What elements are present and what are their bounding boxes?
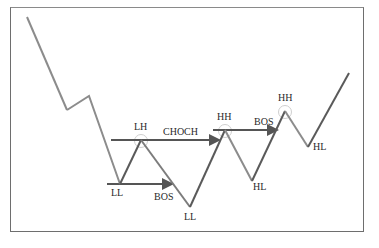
label-hh-2: HH — [278, 92, 292, 103]
label-hl-2: HL — [313, 141, 326, 152]
leg-up-2 — [190, 130, 225, 207]
label-choch: CHOCH — [163, 126, 198, 137]
label-ll-1: LL — [111, 187, 123, 198]
label-hl-1: HL — [253, 181, 266, 192]
label-ll-2: LL — [184, 211, 196, 222]
market-structure-diagram: LL LH BOS LL CHOCH HH HL BOS HH HL — [0, 0, 379, 248]
leg-up-4 — [308, 73, 349, 147]
leg-down-4 — [285, 111, 308, 147]
price-path-down — [27, 17, 67, 110]
label-bos-1: BOS — [154, 191, 173, 202]
label-hh-1: HH — [217, 111, 231, 122]
label-lh: LH — [134, 121, 147, 132]
leg-up-1 — [120, 140, 141, 184]
label-bos-2: BOS — [254, 116, 273, 127]
leg-down-3 — [225, 130, 252, 181]
